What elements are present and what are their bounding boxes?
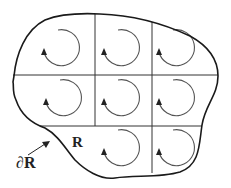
circulation-icon [156, 130, 194, 166]
boundary-label: ∂R [16, 155, 35, 171]
circulation-icon [41, 30, 79, 66]
circulation-icon [101, 130, 139, 166]
circulation-icon [101, 80, 139, 116]
region-boundary [13, 14, 218, 179]
boundary-pointer-arrow [28, 141, 50, 155]
circulation-icon [156, 80, 194, 116]
circulation-icon [101, 30, 139, 66]
grid-lines [13, 14, 218, 173]
region-label: R [72, 135, 83, 150]
circulation-icon [43, 80, 81, 116]
